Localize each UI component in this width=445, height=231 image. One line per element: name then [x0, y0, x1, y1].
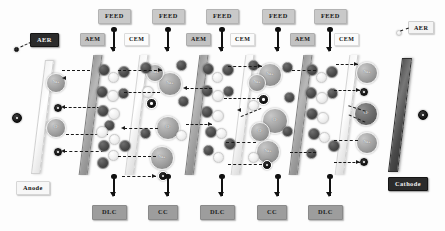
ion-charge-e2: [262, 160, 272, 170]
migration-dash-c4: [118, 156, 156, 157]
anode-label: Anode: [16, 181, 50, 195]
molecule-cluster-item: [96, 126, 108, 138]
migration-dash-c2: [124, 92, 160, 93]
ion-charge-g1: [360, 88, 368, 96]
aer-label-right: AER: [408, 21, 434, 34]
migration-head-a2: [61, 105, 65, 109]
feed-label-4: FEED: [262, 9, 295, 24]
migration-dash-e2: [224, 98, 260, 99]
migration-dash-e5: [228, 164, 262, 165]
membrane-label-aem-2: AEM: [186, 33, 211, 46]
cathode-charge-marker: [418, 110, 428, 120]
molecule-cluster-item: [98, 140, 110, 152]
migration-head-g6: [356, 160, 360, 164]
migration-head-d2: [208, 122, 212, 126]
outlet-label-cc-2: CC: [257, 205, 287, 220]
molecule-cluster-item: [203, 145, 214, 156]
migration-dash-c5: [122, 176, 156, 177]
outlet-arrow-4: [274, 176, 282, 196]
molecule-cluster-item: [248, 152, 259, 163]
feed-arrow-5: [326, 29, 334, 51]
migration-dash-d1: [186, 88, 212, 89]
molecule-cluster-item: [223, 86, 234, 97]
migration-head-a4: [61, 149, 65, 153]
ion-chloride-g1: Cl-: [354, 102, 378, 126]
cathode-plate: [388, 58, 412, 172]
migration-dash-a4: [64, 151, 104, 152]
migration-dash-g5: [334, 140, 358, 141]
molecule-cluster-item: [213, 152, 224, 163]
molecule-cluster-item: [282, 62, 293, 73]
membrane-label-aem-3: AEM: [290, 33, 315, 46]
migration-dash-a2: [64, 107, 100, 108]
molecule-cluster-item: [216, 128, 227, 139]
ion-sodium-g2: Na+: [356, 132, 378, 154]
molecule-cluster-item: [326, 66, 338, 78]
ion-sodium-e2: Na+: [248, 74, 266, 92]
ed-stack-diagram: FEED FEED FEED FEED FEED AEM CEM AEM CEM…: [0, 0, 445, 231]
outlet-arrow-5: [326, 176, 334, 196]
aer-ion-left: [14, 47, 19, 52]
migration-dash-f1: [292, 70, 316, 71]
migration-head-g1: [354, 62, 358, 66]
feed-label-1: FEED: [98, 9, 131, 24]
migration-dash-c1: [118, 70, 162, 71]
feed-label-2: FEED: [152, 9, 185, 24]
membrane-label-cem-3: CEM: [334, 33, 359, 46]
feed-arrow-1: [110, 29, 118, 51]
molecule-cluster-item: [284, 92, 295, 103]
feed-arrow-4: [274, 29, 282, 51]
migration-head-c3: [121, 126, 125, 130]
molecule-cluster-item: [178, 96, 189, 107]
ion-charge-e1: [258, 94, 269, 105]
outlet-label-dlc-1: DLC: [92, 205, 127, 220]
molecule-cluster-item: [212, 110, 224, 122]
outlet-label-dlc-2: DLC: [200, 205, 235, 220]
feed-label-3: FEED: [206, 9, 239, 24]
feed-arrow-2: [164, 29, 172, 51]
ion-chloride-e2: Cl-: [250, 122, 270, 142]
outlet-arrow-2: [164, 176, 172, 196]
migration-head-c1: [158, 68, 162, 72]
ion-sodium-c3: Na+: [150, 146, 174, 170]
membrane-label-cem-1: CEM: [124, 33, 149, 46]
outlet-label-cc-1: CC: [148, 205, 178, 220]
migration-head-d1: [183, 86, 187, 90]
migration-head-e3: [237, 108, 241, 112]
molecule-cluster-item: [97, 157, 109, 169]
membrane-label-aem-1: AEM: [80, 33, 105, 46]
molecule-cluster-item: [282, 126, 293, 137]
molecule-cluster-item: [118, 88, 129, 99]
molecule-cluster-item: [119, 140, 131, 152]
migration-dash-f2: [290, 152, 316, 153]
outlet-label-dlc-3: DLC: [308, 205, 343, 220]
ion-charge-c1: [146, 98, 157, 109]
molecule-cluster-item: [118, 66, 130, 78]
molecule-cluster-item: [317, 112, 329, 124]
cathode-label: Cathode: [388, 177, 428, 191]
ion-charge-g2: [360, 158, 368, 166]
migration-dash-e4: [226, 142, 256, 143]
feed-label-5: FEED: [314, 9, 347, 24]
molecule-cluster-item: [108, 108, 120, 120]
molecule-cluster-item: [212, 72, 223, 83]
ion-chloride-a1: Cl-: [46, 118, 66, 138]
migration-head-a1: [62, 76, 66, 80]
outlet-arrow-3: [218, 176, 226, 196]
anode-charge-marker: [12, 113, 22, 123]
molecule-cluster-item: [140, 62, 152, 74]
aer-label-left: AER: [30, 33, 59, 47]
molecule-cluster-item: [306, 148, 317, 159]
migration-dash-e1: [228, 66, 262, 67]
molecule-cluster-item: [224, 138, 236, 150]
migration-dash-c3: [124, 128, 158, 129]
molecule-cluster-item: [176, 130, 187, 141]
feed-arrow-3: [218, 29, 226, 51]
migration-head-g2: [356, 88, 360, 92]
molecule-cluster-item: [140, 128, 151, 139]
membrane-label-cem-2: CEM: [230, 33, 255, 46]
molecule-cluster-item: [328, 140, 340, 152]
molecule-cluster-item: [176, 60, 187, 71]
ion-sodium-g1: Na+: [356, 62, 378, 84]
migration-head-e1: [258, 64, 262, 68]
